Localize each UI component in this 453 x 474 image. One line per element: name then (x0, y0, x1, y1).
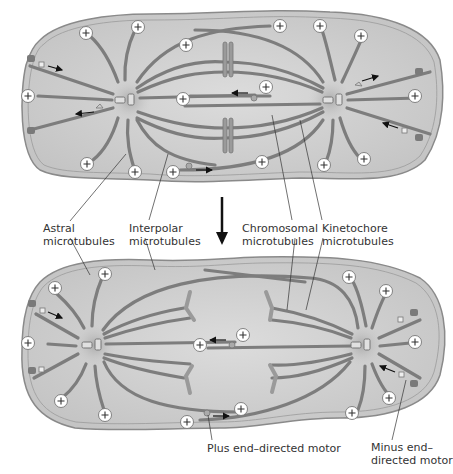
label-plus-end-directed-motor: Plus end–directed motor (207, 442, 341, 455)
cell-bottom (22, 257, 445, 430)
label-kinetochore-microtubules: Kinetochore microtubules (322, 222, 394, 248)
label-chromosomal-microtubules: Chromosomal microtubules (242, 222, 318, 248)
label-interpolar-microtubules: Interpolar microtubules (129, 222, 201, 248)
cell-top (22, 11, 443, 182)
label-astral-microtubules: Astral microtubules (43, 222, 115, 248)
down-arrow-icon (216, 197, 228, 245)
label-minus-end-directed-motor: Minus end– directed motor (371, 441, 453, 467)
